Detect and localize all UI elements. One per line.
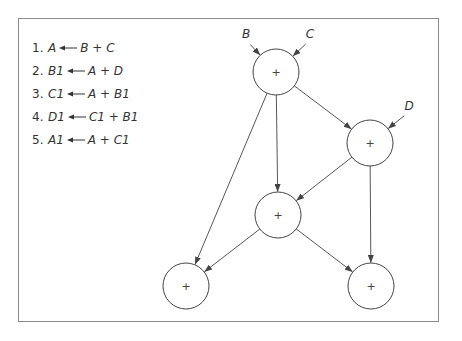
edge-n1-to-n2 (294, 86, 351, 129)
input-label-B: B (242, 27, 250, 41)
input-label-C: C (306, 27, 315, 41)
graph-nodes: +++++ (163, 49, 394, 309)
plus-operator-label: + (365, 137, 374, 150)
edge-B-to-n1 (250, 44, 260, 54)
plus-operator-label: + (181, 280, 190, 293)
input-label-D: D (404, 99, 413, 113)
plus-operator-label: + (271, 66, 280, 79)
edge-n2-to-n3 (297, 157, 352, 200)
plus-operator-label: + (366, 280, 375, 293)
plus-operator-label: + (273, 209, 282, 222)
edge-n1-to-n3 (276, 95, 277, 192)
edge-D-to-n2 (388, 116, 404, 129)
edge-n1-to-n4 (195, 93, 267, 264)
edge-n2-to-n5 (370, 166, 371, 263)
edge-C-to-n1 (293, 44, 306, 56)
edge-n3-to-n4 (205, 229, 260, 272)
dataflow-graph: +++++ BCD (0, 0, 462, 341)
edge-n3-to-n5 (296, 229, 352, 272)
